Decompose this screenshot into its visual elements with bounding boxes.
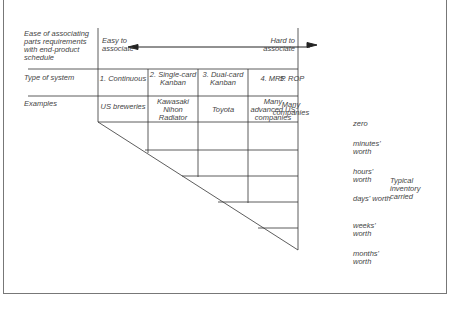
inventory-level-minutes: minutes' worth (353, 140, 393, 156)
example-1: US breweries (99, 103, 147, 111)
system-type-2: 2. Single-card Kanban (149, 71, 197, 87)
row-label-examples: Examples (24, 100, 84, 108)
system-type-1: 1. Continuous (99, 75, 147, 83)
inventory-level-hours: hours' worth (353, 168, 393, 184)
example-3: Toyota (199, 106, 247, 114)
inventory-level-weeks: weeks' worth (353, 222, 393, 238)
ease-easy-label: Easy to associate (102, 37, 138, 53)
example-5: Many companies (266, 101, 316, 117)
inventory-level-months: months' worth (353, 250, 393, 266)
example-2: Kawasaki Nihon Radiator (149, 98, 197, 122)
row-label-type: Type of system (24, 74, 84, 82)
inventory-level-days: days' worth (353, 195, 393, 203)
ease-hard-label: Hard to associate (255, 37, 295, 53)
inventory-axis-label: Typical inventory carried (390, 177, 434, 201)
system-type-5: 5. ROP (268, 75, 316, 83)
row-label-ease: Ease of associating parts requirements w… (24, 30, 96, 62)
system-type-3: 3. Dual-card Kanban (199, 71, 247, 87)
inventory-level-zero: zero (353, 120, 393, 128)
